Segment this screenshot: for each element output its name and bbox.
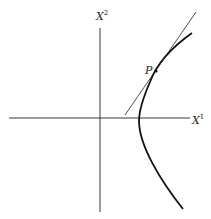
hyperbola-diagram: P X2 X1 xyxy=(0,0,211,219)
tangent-line xyxy=(125,12,196,115)
point-p-label: P xyxy=(144,64,153,77)
point-p xyxy=(154,69,157,72)
x1-axis-label-sup: 1 xyxy=(200,113,204,121)
x2-axis-label-sup: 2 xyxy=(104,9,108,17)
hyperbola-curve xyxy=(139,33,192,209)
x1-axis-label: X1 xyxy=(191,113,204,127)
x2-axis-label: X2 xyxy=(95,9,108,23)
